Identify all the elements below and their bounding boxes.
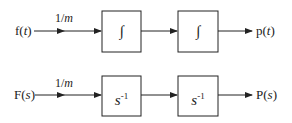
output-signal-time: p(t) (256, 24, 275, 38)
inverse-s-symbol-2: s-1 (178, 88, 218, 108)
gain-label-time: 1/m (55, 12, 73, 24)
output-signal-laplace: P(s) (256, 88, 277, 102)
block-diagram-lines (0, 0, 292, 123)
integral-symbol-1: ∫ (102, 23, 141, 39)
input-signal-laplace: F(s) (14, 88, 35, 102)
inverse-s-symbol-1: s-1 (102, 88, 141, 108)
integral-symbol-2: ∫ (178, 23, 218, 39)
input-signal-time: f(t) (15, 24, 32, 38)
gain-label-laplace: 1/m (55, 77, 73, 89)
